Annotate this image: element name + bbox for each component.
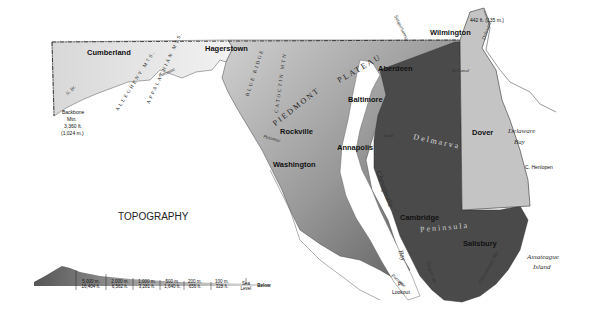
legend-item: 100 m.328 ft. (212, 279, 232, 289)
map-title: TOPOGRAPHY (118, 212, 188, 222)
legend-item: 2,000 m.6,562 ft. (107, 279, 133, 289)
legend-item: 1,000 m.3,281 ft. (134, 279, 160, 289)
legend-item: SeaLevel (238, 281, 254, 291)
backbone-label-2: Mtn. (67, 117, 77, 122)
legend-item: 500 m.1,640 ft. (161, 279, 184, 289)
label-delaware-bay-2: Bay (514, 139, 525, 146)
label-assateague-1: Assateague (527, 254, 559, 261)
city-washington: Washington (273, 161, 316, 169)
legend-item: 200 m.656 ft. (185, 279, 205, 289)
label-pt-lookout-2: Lookout (392, 290, 410, 295)
city-aberdeen: Aberdeen (378, 65, 413, 73)
city-cambridge: Cambridge (400, 214, 439, 222)
high-point-delaware: 442 ft. (135 m.) (470, 18, 504, 23)
delaware (460, 8, 530, 210)
legend-item: 5,000 m.16,404 ft. (77, 279, 105, 289)
label-dc-canal: D.Canal (452, 68, 469, 73)
label-kent: Kent (384, 133, 393, 138)
city-hagerstown: Hagerstown (205, 45, 248, 53)
label-c-henlopen: C. Henlopen (525, 165, 553, 170)
legend-below: Below (254, 283, 274, 288)
city-wilmington: Wilmington (430, 29, 471, 37)
label-delaware-bay-1: Delaware (508, 128, 535, 135)
city-cumberland: Cumberland (87, 49, 131, 57)
city-dover: Dover (472, 129, 493, 137)
city-rockville: Rockville (280, 128, 313, 136)
city-baltimore: Baltimore (348, 96, 383, 104)
city-salisbury: Salisbury (463, 240, 497, 248)
backbone-label-1: Backbone (62, 110, 84, 115)
label-assateague-2: Island (533, 264, 551, 271)
backbone-label-4: (1,024 m.) (61, 131, 84, 136)
topography-map: Cumberland Hagerstown Wilmington Aberdee… (0, 0, 589, 319)
city-annapolis: Annapolis (337, 144, 373, 152)
backbone-label-3: 3,360 ft. (64, 124, 82, 129)
label-pt-lookout-1: Pt. (398, 282, 404, 287)
